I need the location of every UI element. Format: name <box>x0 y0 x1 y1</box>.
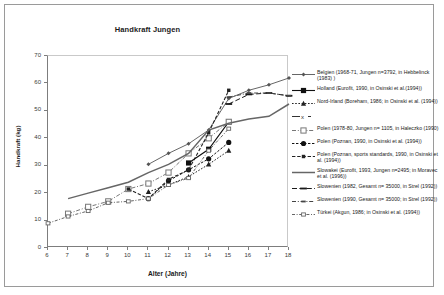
x-tick-label: 18 <box>279 252 297 258</box>
legend-marker-icon <box>291 139 317 148</box>
series-line <box>68 104 289 199</box>
series-line <box>128 90 228 198</box>
data-point <box>227 127 231 130</box>
legend-label: Polen (1978-80, Jungen n= 1105, in Halec… <box>317 125 438 131</box>
legend-item[interactable]: Nord-Irland (Boreham, 1986; in Osinski e… <box>291 98 441 108</box>
x-tick-label: 12 <box>159 252 177 258</box>
legend-item[interactable]: Slowakei (Eurofit, 1993, Jungen n=2495; … <box>291 167 441 180</box>
x-tick-label: 10 <box>118 252 136 258</box>
legend-label: Slowenien (1982, Gesamt n= 35000, in Str… <box>317 183 437 189</box>
data-point <box>267 92 271 94</box>
legend-label: Türkei (Akgun, 1986; in Osinski et al. (… <box>317 209 420 215</box>
data-point <box>247 92 251 94</box>
data-point <box>66 215 70 218</box>
data-point <box>226 148 231 153</box>
series-8 <box>225 92 292 105</box>
data-point <box>301 127 306 132</box>
series-layer <box>48 56 289 248</box>
y-tick-label: 10 <box>23 216 41 222</box>
y-tick-label: 60 <box>23 79 41 85</box>
svg-text:x: x <box>301 114 304 120</box>
x-tick-label: 16 <box>239 252 257 258</box>
data-point <box>46 222 50 225</box>
data-point <box>225 103 232 105</box>
y-tick-label: 30 <box>23 161 41 167</box>
legend-item[interactable]: Slowenien (1982, Gesamt n= 35000, in Str… <box>291 183 441 193</box>
legend-marker-icon <box>291 168 317 177</box>
legend-item[interactable]: Türkei (Akgun, 1986; in Osinski et al. (… <box>291 209 441 219</box>
x-tick-label: 14 <box>199 252 217 258</box>
data-point <box>86 209 90 212</box>
data-point <box>227 89 230 92</box>
x-tick-label: 15 <box>219 252 237 258</box>
series-line <box>48 129 229 224</box>
x-tick-label: 13 <box>179 252 197 258</box>
data-point <box>302 155 305 158</box>
data-point <box>146 181 151 186</box>
data-point <box>247 88 251 92</box>
legend-label: Nord-Irland (Boreham, 1986; in Osinski e… <box>317 98 438 104</box>
data-point <box>302 213 306 216</box>
data-point <box>302 73 306 77</box>
chart-legend: Belgien (1968-71, Jungen n=3792, in Hebb… <box>291 69 441 223</box>
x-tick-label: 7 <box>58 252 76 258</box>
x-tick-label: 17 <box>259 252 277 258</box>
data-point <box>86 204 91 209</box>
y-tick-label: 20 <box>23 189 41 195</box>
data-point <box>301 88 306 93</box>
legend-marker-icon <box>291 152 317 161</box>
legend-marker-icon <box>291 197 317 206</box>
y-axis-title: Handkraft (kg) <box>14 102 21 192</box>
data-point <box>226 140 231 145</box>
x-tick-label: 11 <box>138 252 156 258</box>
data-point <box>267 83 271 87</box>
y-tick-label: 50 <box>23 106 41 112</box>
legend-label: Polen (Poznan, sports standards, 1990, i… <box>317 151 441 164</box>
data-point <box>301 141 306 146</box>
data-point <box>167 151 171 155</box>
data-point <box>146 162 150 166</box>
data-point <box>127 187 130 190</box>
y-tick-label: 0 <box>23 244 41 250</box>
legend-marker-icon <box>291 184 317 193</box>
plot-area <box>47 55 288 247</box>
legend-label: Slowakei (Eurofit, 1993, Jungen n=2495; … <box>317 167 441 180</box>
data-point <box>167 183 171 186</box>
data-point <box>147 197 151 200</box>
legend-item[interactable]: Polen (Poznan, sports standards, 1990, i… <box>291 151 441 164</box>
legend-item[interactable]: x <box>291 111 441 121</box>
data-point <box>166 170 171 175</box>
data-point <box>227 96 231 98</box>
legend-item[interactable]: Polen (1978-80, Jungen n= 1105, in Halec… <box>291 125 441 135</box>
y-tick-label: 40 <box>23 134 41 140</box>
legend-marker-icon <box>291 86 317 95</box>
data-point <box>146 189 151 194</box>
legend-label: Holland (Eurofit, 1990, in Osinski et al… <box>317 85 422 91</box>
chart-frame: Handkraft Jungen Handkraft (kg) Alter (J… <box>4 4 434 287</box>
legend-item[interactable]: Holland (Eurofit, 1990, in Osinski et al… <box>291 85 441 95</box>
legend-label: Belgien (1968-71, Jungen n=3792, in Hebb… <box>317 69 441 82</box>
legend-label: Polen (Poznan, 1990, in Osinski et al. (… <box>317 138 422 144</box>
legend-item[interactable]: Polen (Poznan, 1990, in Osinski et al. (… <box>291 138 441 148</box>
legend-item[interactable]: Slowenien (1990, Gesamt n= 35000; in Str… <box>291 196 441 206</box>
legend-marker-icon <box>291 126 317 135</box>
data-point <box>187 176 191 179</box>
data-point <box>126 200 130 203</box>
legend-item[interactable]: Belgien (1968-71, Jungen n=3792, in Hebb… <box>291 69 441 82</box>
data-point <box>206 156 211 161</box>
series-0 <box>146 76 291 166</box>
x-axis-title: Alter (Jahre) <box>47 270 288 277</box>
series-10 <box>46 127 231 225</box>
data-point <box>207 149 211 152</box>
data-point <box>206 162 211 167</box>
legend-marker-icon <box>291 70 317 79</box>
series-4 <box>65 119 231 216</box>
data-point <box>186 160 191 165</box>
data-point <box>301 201 305 203</box>
y-tick-label: 70 <box>23 52 41 58</box>
data-point <box>300 188 307 190</box>
legend-label: Slowenien (1990, Gesamt n= 35000; in Str… <box>317 196 437 202</box>
x-tick-label: 6 <box>38 252 56 258</box>
series-line <box>148 78 289 164</box>
data-point <box>187 168 190 171</box>
